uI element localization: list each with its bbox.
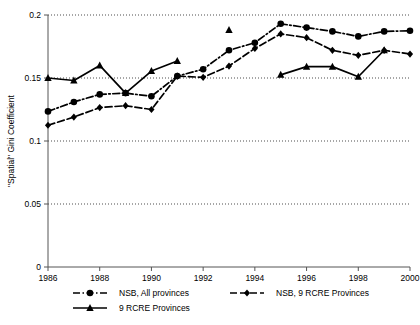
marker-circle bbox=[226, 47, 233, 54]
marker-circle bbox=[200, 66, 207, 73]
marker-circle bbox=[303, 24, 310, 31]
marker-diamond bbox=[226, 62, 232, 69]
x-tick-label: 1988 bbox=[90, 273, 109, 283]
x-tick-label: 1994 bbox=[245, 273, 264, 283]
data-series-layer bbox=[44, 21, 413, 129]
marker-triangle bbox=[96, 61, 103, 68]
gridlines bbox=[48, 15, 410, 204]
marker-circle bbox=[87, 290, 94, 297]
marker-diamond bbox=[407, 50, 413, 57]
y-tick-label: 0.2 bbox=[29, 10, 41, 20]
marker-circle bbox=[45, 108, 52, 115]
legend-label: NSB, 9 RCRE Provinces bbox=[276, 288, 369, 298]
legend-label: 9 RCRE Provinces bbox=[119, 303, 190, 313]
legend-label: NSB, All provinces bbox=[119, 288, 189, 298]
marker-circle bbox=[96, 91, 103, 98]
series-line bbox=[48, 61, 177, 93]
marker-diamond bbox=[304, 34, 310, 41]
chart-container: 00.050.10.150.2 198619881990199219941996… bbox=[0, 0, 420, 325]
marker-triangle bbox=[174, 57, 181, 64]
y-axis-title: "Spatial" Gini Coefficient bbox=[6, 94, 16, 187]
marker-circle bbox=[277, 21, 284, 28]
x-axis-ticks bbox=[48, 267, 410, 271]
marker-diamond bbox=[355, 52, 361, 59]
marker-circle bbox=[381, 28, 388, 35]
line-chart: 00.050.10.150.2 198619881990199219941996… bbox=[0, 0, 420, 325]
marker-circle bbox=[71, 99, 78, 106]
marker-diamond bbox=[278, 30, 284, 37]
marker-diamond bbox=[200, 74, 206, 81]
marker-circle bbox=[407, 27, 414, 34]
marker-circle bbox=[148, 93, 155, 100]
y-tick-label: 0 bbox=[36, 262, 41, 272]
series-9-rcre-provinces bbox=[44, 26, 388, 96]
y-tick-label: 0.15 bbox=[24, 73, 41, 83]
marker-diamond bbox=[244, 289, 250, 296]
marker-triangle bbox=[225, 26, 232, 33]
marker-diamond bbox=[45, 122, 51, 129]
x-tick-label: 2000 bbox=[401, 273, 420, 283]
y-axis-ticks bbox=[44, 15, 48, 267]
marker-diamond bbox=[329, 47, 335, 54]
marker-diamond bbox=[71, 113, 77, 120]
y-axis-tick-labels: 00.050.10.150.2 bbox=[24, 10, 41, 272]
x-tick-label: 1986 bbox=[39, 273, 58, 283]
x-tick-label: 1996 bbox=[297, 273, 316, 283]
marker-diamond bbox=[97, 104, 103, 111]
chart-legend: NSB, All provincesNSB, 9 RCRE Provinces9… bbox=[73, 288, 369, 313]
x-tick-label: 1992 bbox=[194, 273, 213, 283]
marker-diamond bbox=[252, 45, 258, 52]
marker-circle bbox=[355, 33, 362, 40]
x-tick-label: 1990 bbox=[142, 273, 161, 283]
marker-circle bbox=[329, 28, 336, 35]
x-axis-tick-labels: 19861988199019921994199619982000 bbox=[39, 273, 420, 283]
y-tick-label: 0.05 bbox=[24, 199, 41, 209]
y-tick-label: 0.1 bbox=[29, 136, 41, 146]
x-tick-label: 1998 bbox=[349, 273, 368, 283]
marker-diamond bbox=[123, 102, 129, 109]
